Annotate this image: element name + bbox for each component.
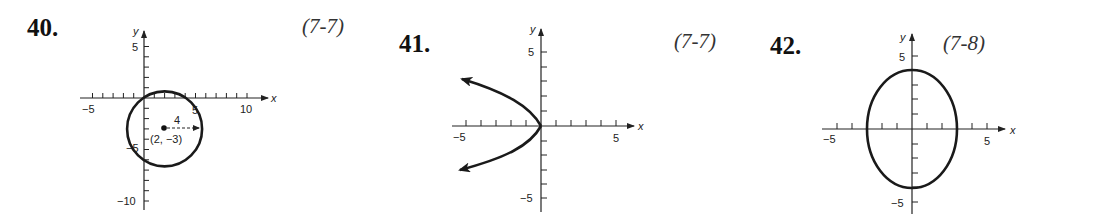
parabola-upper-branch — [462, 79, 541, 126]
x-tick-label: 10 — [240, 103, 252, 115]
y-tick-label: 5 — [899, 51, 905, 63]
y-tick-label: 5 — [132, 41, 138, 53]
graphs-canvas: −5 5 10 5 −5 −10 x y 4 (2, −3) — [0, 0, 1108, 214]
parabola-lower-branch — [460, 126, 541, 170]
y-axis-label: y — [899, 31, 907, 43]
y-axis-label: y — [132, 25, 140, 37]
x-tick-label: −5 — [82, 103, 95, 115]
x-tick-label: 5 — [613, 132, 619, 144]
radius-label: 4 — [174, 114, 180, 126]
y-tick-label: −10 — [117, 195, 136, 207]
x-ticks — [93, 93, 248, 98]
x-tick-label: −5 — [453, 131, 466, 143]
x-tick-label: 5 — [984, 135, 990, 147]
x-axis-label: x — [270, 92, 277, 104]
x-tick-label: −5 — [823, 133, 836, 145]
center-label: (2, −3) — [150, 133, 182, 145]
y-axis-label: y — [529, 23, 537, 35]
y-ticks — [144, 47, 149, 202]
y-tick-label: −5 — [520, 192, 533, 204]
y-tick-label: −5 — [891, 197, 904, 209]
center-point — [161, 125, 167, 131]
x-axis-label: x — [637, 120, 644, 132]
y-tick-label: 5 — [528, 46, 534, 58]
graph-41: −5 5 5 −5 x y — [452, 23, 644, 212]
x-axis-label: x — [1009, 124, 1016, 136]
graph-40: −5 5 10 5 −5 −10 x y 4 (2, −3) — [80, 25, 277, 210]
graph-42: −5 5 5 −5 x y — [822, 31, 1016, 214]
